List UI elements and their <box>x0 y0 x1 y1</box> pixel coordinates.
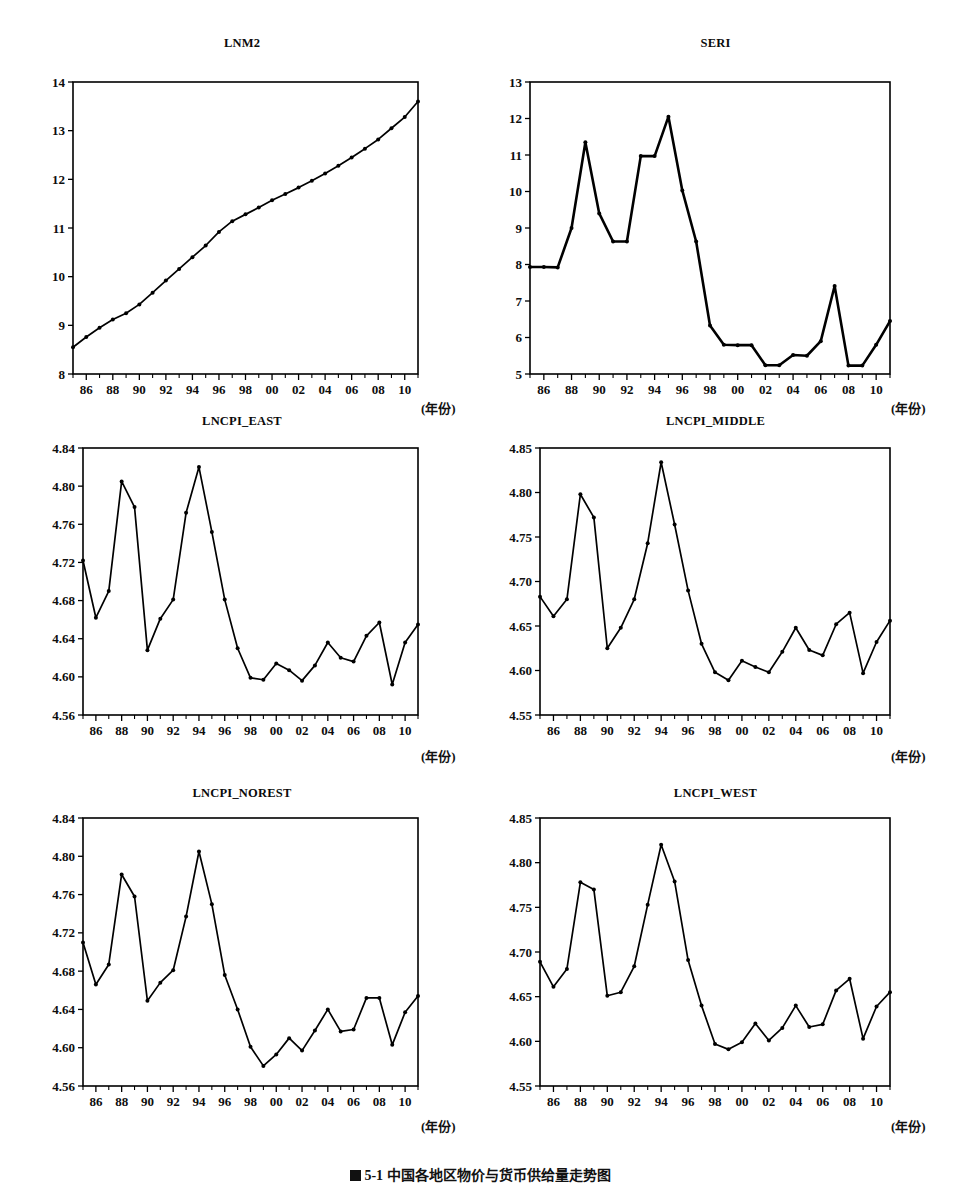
x-tick-label: 92 <box>167 1094 180 1109</box>
x-tick-label: 86 <box>80 382 94 397</box>
chart-panel-lncpi_middle: LNCPI_MIDDLE4.554.604.654.704.754.804.85… <box>478 414 953 790</box>
x-tick-label: 08 <box>373 1094 387 1109</box>
x-tick-label: 06 <box>816 723 830 738</box>
x-tick-label: 86 <box>89 1094 103 1109</box>
y-tick-label: 14 <box>52 75 66 90</box>
x-tick-label: 96 <box>218 723 232 738</box>
y-tick-label: 4.80 <box>52 849 75 864</box>
x-tick-label: 10 <box>399 723 412 738</box>
y-tick-label: 4.85 <box>509 441 532 456</box>
y-tick-label: 4.84 <box>52 441 75 456</box>
chart-panel-lncpi_norest: LNCPI_NOREST4.564.604.644.684.724.764.80… <box>8 786 476 1166</box>
series-markers-lnm2 <box>71 99 420 349</box>
series-markers-lncpi_norest <box>81 850 420 1068</box>
x-tick-label: 00 <box>735 723 748 738</box>
series-line-seri <box>530 117 890 366</box>
x-tick-label: 98 <box>244 1094 258 1109</box>
x-tick-label: 98 <box>709 723 723 738</box>
chart-panel-seri: SERI567891011121386889092949698000204060… <box>478 36 953 420</box>
x-tick-label: 94 <box>655 723 669 738</box>
caption-marker-square <box>350 1170 361 1181</box>
y-tick-label: 11 <box>510 148 522 163</box>
x-tick-label: 08 <box>843 723 857 738</box>
x-tick-label: 96 <box>682 723 696 738</box>
y-tick-label: 4.72 <box>52 925 75 940</box>
x-tick-label: 90 <box>141 723 154 738</box>
y-tick-label: 4.65 <box>509 989 532 1004</box>
x-tick-label: 90 <box>601 1094 614 1109</box>
x-tick-label: 04 <box>321 723 335 738</box>
x-tick-label: 00 <box>735 1094 748 1109</box>
y-tick-label: 4.68 <box>52 964 75 979</box>
x-tick-label: 04 <box>789 723 803 738</box>
x-tick-label: 02 <box>292 382 305 397</box>
plot-area-lnm2: 89101112131486889092949698000204060810 <box>8 36 476 420</box>
y-tick-label: 4.85 <box>509 811 532 826</box>
x-axis-unit-label-lncpi_east: (年份) <box>421 746 456 765</box>
x-tick-label: 02 <box>296 1094 309 1109</box>
y-tick-label: 7 <box>516 294 523 309</box>
x-tick-label: 98 <box>239 382 253 397</box>
y-tick-label: 4.84 <box>52 811 75 826</box>
x-tick-label: 88 <box>115 1094 128 1109</box>
y-tick-label: 4.64 <box>52 631 75 646</box>
series-line-lncpi_east <box>83 467 418 684</box>
x-tick-label: 90 <box>133 382 146 397</box>
x-tick-label: 94 <box>192 1094 206 1109</box>
y-tick-label: 11 <box>53 221 65 236</box>
y-tick-label: 4.56 <box>52 708 75 723</box>
x-tick-label: 94 <box>655 1094 669 1109</box>
y-tick-label: 12 <box>509 111 522 126</box>
x-tick-label: 00 <box>731 382 744 397</box>
x-tick-label: 88 <box>574 1094 588 1109</box>
y-tick-label: 5 <box>516 367 523 382</box>
y-tick-label: 8 <box>516 257 523 272</box>
plot-area-lncpi_east: 4.564.604.644.684.724.764.804.8486889092… <box>8 414 476 790</box>
x-tick-label: 90 <box>601 723 614 738</box>
series-markers-lncpi_west <box>538 843 892 1052</box>
y-tick-label: 9 <box>59 318 66 333</box>
x-tick-label: 96 <box>676 382 690 397</box>
x-tick-label: 10 <box>870 723 883 738</box>
x-tick-label: 92 <box>167 723 180 738</box>
x-tick-label: 08 <box>842 382 856 397</box>
y-tick-label: 10 <box>52 269 65 284</box>
x-tick-label: 04 <box>319 382 333 397</box>
x-axis-unit-label-lncpi_west: (年份) <box>891 1116 926 1135</box>
x-tick-label: 10 <box>399 1094 412 1109</box>
y-tick-label: 12 <box>52 172 65 187</box>
x-tick-label: 96 <box>212 382 226 397</box>
y-tick-label: 4.64 <box>52 1002 75 1017</box>
x-tick-label: 86 <box>547 723 561 738</box>
x-tick-label: 08 <box>373 723 387 738</box>
y-tick-label: 4.80 <box>509 855 532 870</box>
x-tick-label: 00 <box>266 382 279 397</box>
x-tick-label: 00 <box>270 1094 283 1109</box>
x-axis-unit-label-lncpi_middle: (年份) <box>891 746 926 765</box>
plot-area-lncpi_norest: 4.564.604.644.684.724.764.804.8486889092… <box>8 786 476 1166</box>
y-tick-label: 8 <box>59 367 66 382</box>
y-tick-label: 4.55 <box>509 708 532 723</box>
x-tick-label: 02 <box>762 1094 775 1109</box>
x-tick-label: 98 <box>704 382 718 397</box>
x-tick-label: 90 <box>141 1094 154 1109</box>
x-tick-label: 06 <box>814 382 828 397</box>
y-tick-label: 6 <box>516 330 523 345</box>
x-tick-label: 10 <box>870 382 883 397</box>
figure-caption: 5-1 中国各地区物价与货币供给量走势图 <box>0 1164 961 1184</box>
x-tick-label: 06 <box>347 723 361 738</box>
y-tick-label: 4.55 <box>509 1079 532 1094</box>
y-tick-label: 4.68 <box>52 593 75 608</box>
x-tick-label: 92 <box>628 723 641 738</box>
x-tick-label: 98 <box>709 1094 723 1109</box>
x-tick-label: 02 <box>296 723 309 738</box>
x-tick-label: 88 <box>574 723 588 738</box>
x-tick-label: 90 <box>593 382 606 397</box>
x-tick-label: 86 <box>537 382 551 397</box>
x-tick-label: 94 <box>648 382 662 397</box>
y-tick-label: 4.60 <box>52 1040 75 1055</box>
x-tick-label: 06 <box>347 1094 361 1109</box>
y-tick-label: 4.80 <box>509 485 532 500</box>
series-line-lncpi_west <box>540 845 890 1050</box>
plot-area-lncpi_middle: 4.554.604.654.704.754.804.85868890929496… <box>478 414 953 790</box>
